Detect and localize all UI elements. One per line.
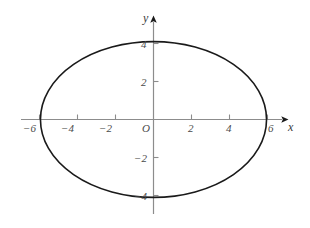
y-tick-label-minus2: −2 [134, 153, 147, 164]
origin-label: O [142, 123, 150, 134]
y-tick-label-2: 2 [141, 77, 147, 88]
ellipse-plot-figure: −6 −4 −2 2 4 6 4 2 −2 −4 O y x [0, 0, 310, 228]
x-axis-label: x [288, 121, 293, 133]
y-tick-label-minus4: −4 [134, 191, 147, 202]
x-tick-label-2: 2 [188, 123, 194, 134]
plot-canvas [0, 0, 310, 228]
y-tick-label-4: 4 [141, 39, 147, 50]
x-tick-label-minus6: −6 [23, 123, 36, 134]
x-tick-label-minus2: −2 [99, 123, 112, 134]
x-tick-label-4: 4 [226, 123, 232, 134]
y-axis-label: y [143, 12, 148, 24]
x-tick-label-minus4: −4 [61, 123, 74, 134]
x-tick-label-6: 6 [268, 123, 274, 134]
